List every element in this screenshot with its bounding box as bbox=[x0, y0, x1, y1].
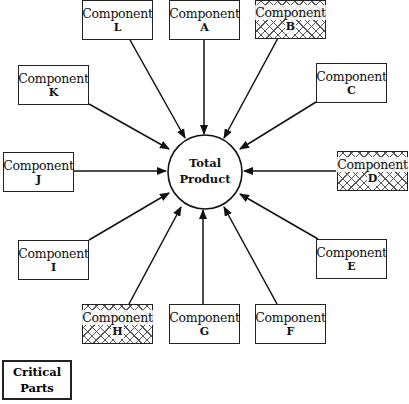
center-line-1: Total bbox=[168, 155, 242, 171]
component-title: Component bbox=[18, 71, 88, 86]
component-letter: D bbox=[367, 172, 379, 186]
component-letter: K bbox=[49, 86, 59, 100]
component-title: Component bbox=[316, 245, 386, 260]
component-j: Component J bbox=[3, 152, 74, 192]
total-product-label: Total Product bbox=[168, 155, 242, 187]
component-letter: H bbox=[111, 325, 123, 339]
critical-parts-legend: Critical Parts bbox=[2, 360, 72, 400]
component-letter: F bbox=[287, 325, 295, 339]
component-letter: J bbox=[36, 173, 41, 187]
component-title: Component bbox=[169, 310, 239, 325]
component-letter: L bbox=[114, 21, 122, 35]
component-title: Component bbox=[18, 246, 88, 261]
component-letter: A bbox=[200, 21, 209, 35]
legend-line-1: Critical bbox=[4, 364, 70, 380]
component-k: Component K bbox=[18, 65, 89, 105]
component-title: Component bbox=[81, 310, 153, 325]
component-title: Component bbox=[3, 158, 73, 173]
component-letter: C bbox=[347, 84, 356, 98]
component-b: Component B bbox=[255, 0, 326, 39]
component-f: Component F bbox=[255, 304, 326, 344]
component-c: Component C bbox=[316, 63, 387, 103]
component-title: Component bbox=[316, 69, 386, 84]
component-d: Component D bbox=[337, 151, 408, 191]
component-a: Component A bbox=[169, 0, 240, 40]
component-title: Component bbox=[255, 310, 325, 325]
component-title: Component bbox=[169, 6, 239, 21]
center-line-2: Product bbox=[168, 171, 242, 187]
component-title: Component bbox=[254, 5, 326, 20]
component-letter: B bbox=[285, 20, 296, 34]
component-letter: E bbox=[347, 260, 355, 274]
component-g: Component G bbox=[169, 304, 240, 344]
component-letter: I bbox=[51, 261, 56, 275]
component-title: Component bbox=[82, 6, 152, 21]
component-h: Component H bbox=[82, 304, 153, 344]
legend-line-2: Parts bbox=[4, 380, 70, 396]
component-letter: G bbox=[200, 325, 209, 339]
component-e: Component E bbox=[316, 239, 387, 279]
component-i: Component I bbox=[18, 240, 89, 280]
component-title: Component bbox=[336, 157, 408, 172]
component-l: Component L bbox=[82, 0, 153, 40]
